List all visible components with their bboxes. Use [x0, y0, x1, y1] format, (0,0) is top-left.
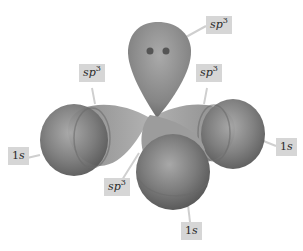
label-italic: s	[19, 149, 25, 162]
label-superscript: 3	[96, 64, 101, 73]
label-text: 1	[280, 140, 287, 153]
lone-pair-lobe	[128, 22, 191, 118]
label-sp3-left: sp3	[79, 64, 105, 82]
orbital-illustration	[0, 0, 303, 251]
label-1s-bottom: 1s	[181, 222, 202, 240]
label-1s-right: 1s	[276, 138, 297, 156]
label-sp3-right: sp3	[196, 64, 222, 82]
label-1s-left: 1s	[8, 147, 29, 165]
label-text: sp	[210, 18, 223, 31]
lone-pair-dot	[163, 48, 170, 55]
lone-pair-dot	[147, 48, 154, 55]
label-superscript: 3	[121, 178, 126, 187]
label-text: sp	[83, 66, 96, 79]
label-italic: s	[192, 224, 198, 237]
label-sp3-front: sp3	[104, 178, 130, 196]
label-text: sp	[108, 180, 121, 193]
orbital-diagram: sp3 sp3 sp3 sp3 1s 1s 1s	[0, 0, 303, 251]
label-superscript: 3	[223, 16, 228, 25]
label-sp3-top: sp3	[206, 16, 232, 34]
label-text: sp	[200, 66, 213, 79]
label-italic: s	[287, 140, 293, 153]
left-bond-orbitals	[40, 104, 150, 176]
label-text: 1	[12, 149, 19, 162]
label-superscript: 3	[213, 64, 218, 73]
label-text: 1	[185, 224, 192, 237]
